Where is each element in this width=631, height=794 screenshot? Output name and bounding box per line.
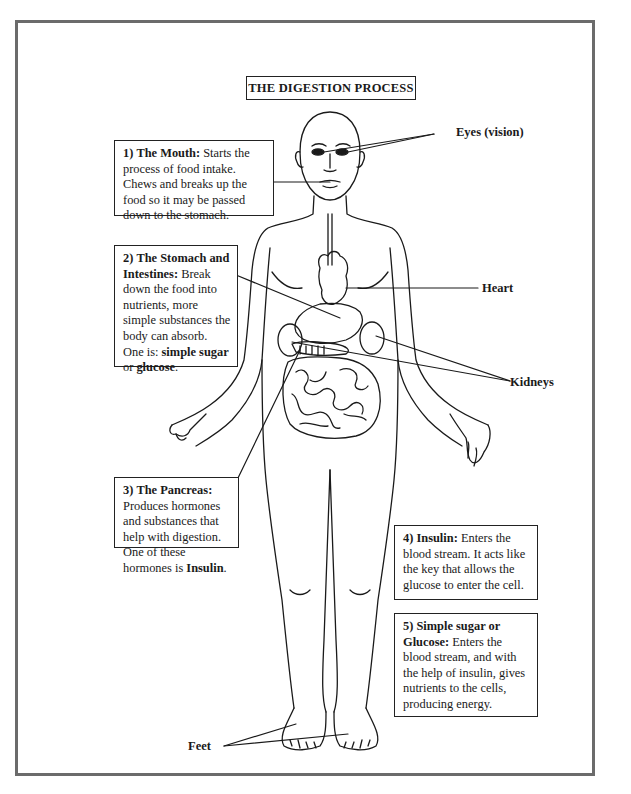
callout-stomach-glucose: glucose: [136, 360, 175, 374]
callout-pancreas: 3) The Pancreas: Produces hormones and s…: [114, 477, 239, 548]
head-drawing: [296, 112, 365, 200]
callout-insulin: 4) Insulin: Enters the blood stream. It …: [394, 525, 538, 600]
callout-pancreas-heading: The Pancreas:: [136, 483, 212, 497]
callout-stomach-period: .: [175, 360, 178, 374]
label-kidneys: Kidneys: [510, 375, 554, 390]
intestines-drawing: [283, 357, 380, 439]
callout-pancreas-insulin: Insulin: [186, 561, 223, 575]
callout-pancreas-number: 3): [123, 483, 133, 497]
callout-insulin-number: 4): [403, 531, 413, 545]
label-eyes: Eyes (vision): [456, 125, 524, 140]
kidney-left-drawing: [278, 324, 302, 356]
callout-stomach-simple-sugar: simple sugar: [162, 345, 229, 359]
callout-stomach-intestines: 2) The Stomach and Intestines: Break dow…: [114, 245, 238, 367]
callout-mouth: 1) The Mouth: Starts the process of food…: [114, 140, 274, 216]
callout-glucose-number: 5): [403, 619, 413, 633]
callout-stomach-heading: The Stomach and Intestines:: [123, 251, 229, 281]
callout-pancreas-period: .: [224, 561, 227, 575]
callout-glucose: 5) Simple sugar or Glucose: Enters the b…: [394, 613, 538, 717]
label-heart: Heart: [482, 281, 513, 296]
callout-mouth-heading: The Mouth:: [136, 146, 200, 160]
label-feet: Feet: [188, 739, 211, 754]
callout-mouth-number: 1): [123, 146, 133, 160]
heart-drawing: [319, 252, 348, 305]
callout-insulin-heading: Insulin:: [416, 531, 457, 545]
stomach-drawing: [295, 303, 362, 343]
callout-stomach-or: or: [123, 360, 136, 374]
callout-stomach-number: 2): [123, 251, 133, 265]
esophagus-drawing: [328, 214, 332, 265]
